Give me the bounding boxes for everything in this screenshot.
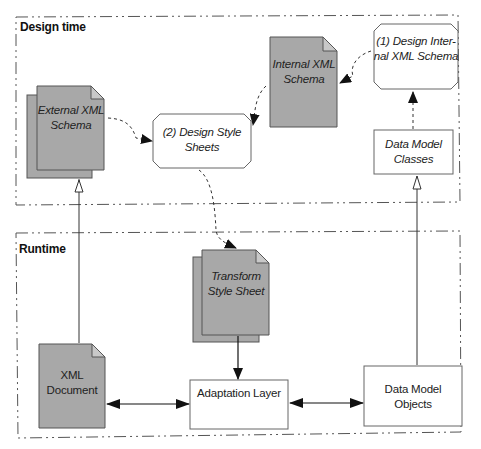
edge-style-sheets-to-transform: [199, 170, 236, 248]
design-internal-xml-schema-node[interactable]: (1) Design Inter- nal XML Schema: [372, 34, 460, 64]
design-internal-xml-schema-label-1: (1) Design Inter-: [372, 34, 460, 49]
design-style-sheets-node[interactable]: (2) Design Style Sheets: [152, 125, 252, 155]
transform-style-sheet-node[interactable]: Transform Style Sheet: [200, 269, 272, 299]
edge-external-schema-to-style-sheets: [108, 118, 152, 141]
data-model-classes-label-2: Classes: [374, 152, 453, 167]
external-xml-schema-label-2: Schema: [36, 118, 106, 133]
design-internal-xml-schema-label-2: nal XML Schema: [372, 49, 460, 64]
xml-document-node[interactable]: XML Document: [37, 368, 107, 398]
design-style-sheets-label-2: Sheets: [152, 140, 252, 155]
internal-xml-schema-label-2: Schema: [268, 72, 340, 87]
design-time-title: Design time: [20, 20, 86, 34]
xml-document-label-2: Document: [37, 383, 107, 398]
data-model-objects-label-1: Data Model: [364, 382, 462, 397]
hollow-arrowhead-external: [75, 180, 83, 192]
xml-document-label-1: XML: [37, 368, 107, 383]
internal-xml-schema-label-1: Internal XML: [268, 57, 340, 72]
transform-style-sheet-label-2: Style Sheet: [200, 284, 272, 299]
edge-internal-schema-to-style-sheets: [253, 86, 266, 125]
external-xml-schema-label-1: External XML: [36, 103, 106, 118]
adaptation-layer-label: Adaptation Layer: [190, 386, 288, 401]
data-model-objects-label-2: Objects: [364, 397, 462, 412]
adaptation-layer-node[interactable]: Adaptation Layer: [190, 386, 288, 401]
transform-style-sheet-label-1: Transform: [200, 269, 272, 284]
data-model-classes-node[interactable]: Data Model Classes: [374, 137, 453, 167]
hollow-arrowhead-classes: [413, 176, 421, 189]
data-model-objects-node[interactable]: Data Model Objects: [364, 382, 462, 412]
external-xml-schema-node[interactable]: External XML Schema: [36, 103, 106, 133]
edge-design-internal-to-internal-schema: [340, 51, 371, 83]
design-style-sheets-label-1: (2) Design Style: [152, 125, 252, 140]
data-model-classes-label-1: Data Model: [374, 137, 453, 152]
runtime-title: Runtime: [19, 242, 66, 256]
internal-xml-schema-node[interactable]: Internal XML Schema: [268, 57, 340, 87]
